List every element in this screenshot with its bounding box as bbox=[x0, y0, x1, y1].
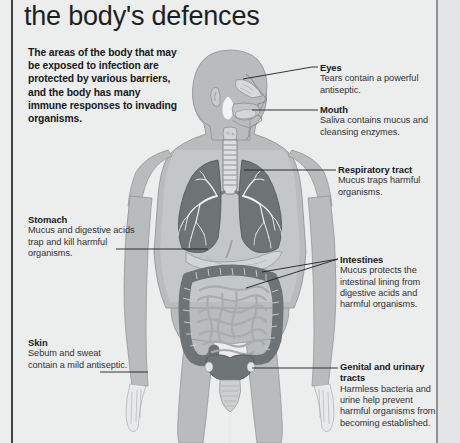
bladder bbox=[205, 355, 255, 443]
callout-mouth: Mouth Saliva contains mucus and cleansin… bbox=[320, 104, 442, 138]
callout-genital-urinary-tracts: Genital and urinary tracts Harmless bact… bbox=[340, 361, 444, 429]
small-intestine bbox=[198, 286, 268, 354]
callout-skin-description: Sebum and sweat contain a mild antisepti… bbox=[28, 348, 128, 371]
left-vertical-rule bbox=[11, 0, 13, 443]
callout-stomach-description: Mucus and digestive acids trap and kill … bbox=[28, 225, 148, 259]
callout-genital-urinary-tracts-description: Harmless bacteria and urine help prevent… bbox=[340, 384, 444, 429]
callout-mouth-title: Mouth bbox=[320, 104, 442, 115]
page-title: the body's defences bbox=[24, 1, 260, 32]
leader-intestines-small bbox=[246, 259, 338, 288]
trachea bbox=[206, 140, 254, 204]
callout-intestines-title: Intestines bbox=[340, 254, 444, 265]
infographic-canvas: the body's defences The areas of the bod… bbox=[0, 0, 460, 443]
callout-genital-urinary-tracts-title: Genital and urinary tracts bbox=[340, 361, 444, 384]
callout-eyes-title: Eyes bbox=[320, 62, 438, 73]
head-profile bbox=[192, 50, 267, 140]
large-intestine bbox=[183, 268, 279, 364]
callout-eyes-description: Tears contain a powerful antiseptic. bbox=[320, 73, 438, 96]
nasal-cavity bbox=[235, 80, 262, 99]
callout-respiratory-tract-description: Mucus traps harmful organisms. bbox=[338, 175, 448, 198]
callout-skin: Skin Sebum and sweat contain a mild anti… bbox=[28, 337, 128, 371]
left-lung bbox=[239, 160, 282, 253]
bronchial-tree-left bbox=[243, 171, 282, 248]
callout-respiratory-tract-title: Respiratory tract bbox=[338, 164, 448, 175]
callout-stomach-title: Stomach bbox=[28, 214, 148, 225]
left-hand bbox=[126, 384, 146, 432]
leader-eyes bbox=[243, 67, 318, 79]
oral-cavity bbox=[232, 103, 260, 120]
callout-mouth-description: Saliva contains mucus and cleansing enzy… bbox=[320, 115, 442, 138]
callout-intestines-description: Mucus protects the intestinal lining fro… bbox=[340, 265, 444, 310]
callout-intestines: Intestines Mucus protects the intestinal… bbox=[340, 254, 444, 311]
callout-stomach: Stomach Mucus and digestive acids trap a… bbox=[28, 214, 148, 259]
callout-skin-title: Skin bbox=[28, 337, 128, 348]
right-lung bbox=[178, 160, 221, 253]
right-hand bbox=[314, 384, 334, 432]
stomach bbox=[186, 240, 282, 273]
bronchial-tree-right bbox=[178, 171, 217, 248]
callout-respiratory-tract: Respiratory tract Mucus traps harmful or… bbox=[338, 164, 448, 198]
callout-eyes: Eyes Tears contain a powerful antiseptic… bbox=[320, 62, 438, 96]
leader-intestines-large bbox=[262, 259, 338, 272]
intro-paragraph: The areas of the body that may be expose… bbox=[28, 46, 178, 125]
